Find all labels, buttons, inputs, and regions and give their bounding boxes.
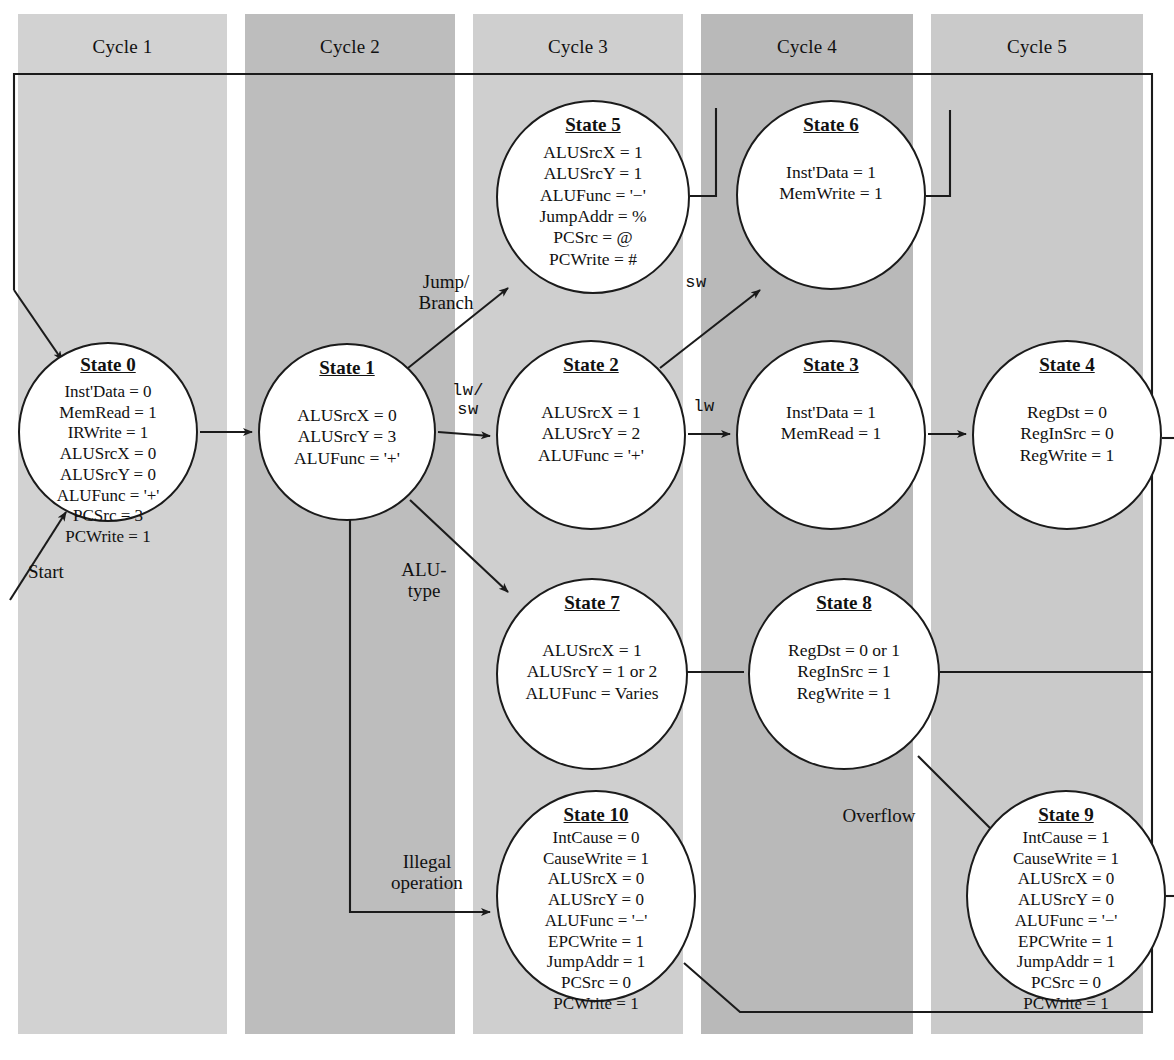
state-title: State 1 bbox=[319, 357, 374, 379]
edge-label-overflow: Overflow bbox=[824, 806, 934, 827]
signal: ALUFunc = '−' bbox=[1015, 911, 1118, 932]
signal: ALUSrcY = 2 bbox=[542, 423, 641, 444]
signal: ALUSrcY = 0 bbox=[1018, 890, 1114, 911]
state-title: State 7 bbox=[564, 592, 619, 614]
signal: IntCause = 1 bbox=[1022, 828, 1109, 849]
state-signal-list: ALUSrcX = 1 ALUSrcY = 2 ALUFunc = '+' bbox=[538, 402, 644, 466]
signal: CauseWrite = 1 bbox=[1013, 849, 1119, 870]
state-title: State 9 bbox=[1038, 804, 1093, 826]
state-title: State 10 bbox=[564, 804, 629, 826]
signal: RegInSrc = 0 bbox=[1020, 423, 1113, 444]
signal: RegWrite = 1 bbox=[797, 683, 892, 704]
state-node-state-1[interactable]: State 1 ALUSrcX = 0 ALUSrcY = 3 ALUFunc … bbox=[258, 343, 436, 521]
signal: EPCWrite = 1 bbox=[1018, 932, 1114, 953]
state-signal-list: ALUSrcX = 1 ALUSrcY = 1 or 2 ALUFunc = V… bbox=[525, 640, 658, 704]
state-signal-list: ALUSrcX = 0 ALUSrcY = 3 ALUFunc = '+' bbox=[294, 405, 400, 469]
state-node-state-7[interactable]: State 7 ALUSrcX = 1 ALUSrcY = 1 or 2 ALU… bbox=[496, 578, 688, 770]
state-signal-list: Inst'Data = 1 MemRead = 1 bbox=[781, 402, 881, 445]
signal: ALUSrcX = 1 bbox=[541, 402, 640, 423]
signal: ALUFunc = '−' bbox=[540, 185, 646, 206]
state-title: State 6 bbox=[803, 114, 858, 136]
signal: ALUSrcX = 1 bbox=[543, 142, 642, 163]
signal: PCWrite = 1 bbox=[1023, 994, 1108, 1015]
signal: EPCWrite = 1 bbox=[548, 932, 644, 953]
signal: PCWrite = 1 bbox=[553, 994, 638, 1015]
signal: PCSrc = @ bbox=[553, 227, 632, 248]
signal: ALUFunc = '+' bbox=[57, 486, 160, 507]
signal: PCWrite = 1 bbox=[65, 527, 150, 548]
signal: CauseWrite = 1 bbox=[543, 849, 649, 870]
state-node-state-5[interactable]: State 5 ALUSrcX = 1 ALUSrcY = 1 ALUFunc … bbox=[496, 100, 690, 294]
signal: ALUSrcX = 0 bbox=[60, 444, 156, 465]
state-signal-list: Inst'Data = 1 MemWrite = 1 bbox=[779, 162, 882, 205]
state-node-state-2[interactable]: State 2 ALUSrcX = 1 ALUSrcY = 2 ALUFunc … bbox=[496, 340, 686, 530]
state-diagram-canvas: Cycle 1 Cycle 2 Cycle 3 Cycle 4 Cycle 5 bbox=[0, 0, 1174, 1060]
cycle-label-4: Cycle 4 bbox=[701, 36, 913, 58]
signal: ALUFunc = Varies bbox=[525, 683, 658, 704]
signal: ALUSrcY = 1 or 2 bbox=[527, 661, 658, 682]
signal: ALUSrcX = 1 bbox=[542, 640, 641, 661]
cycle-label-5: Cycle 5 bbox=[931, 36, 1143, 58]
signal: ALUSrcY = 3 bbox=[298, 426, 397, 447]
state-title: State 3 bbox=[803, 354, 858, 376]
signal: ALUSrcY = 1 bbox=[544, 163, 643, 184]
signal: ALUSrcX = 0 bbox=[548, 869, 644, 890]
signal: ALUSrcX = 0 bbox=[297, 405, 396, 426]
signal: Inst'Data = 0 bbox=[64, 382, 151, 403]
state-node-state-3[interactable]: State 3 Inst'Data = 1 MemRead = 1 bbox=[736, 340, 926, 530]
edge-label-alu-type: ALU- type bbox=[386, 560, 462, 602]
state-signal-list: Inst'Data = 0 MemRead = 1 IRWrite = 1 AL… bbox=[57, 382, 160, 548]
edge-label-lw: lw bbox=[684, 398, 724, 417]
signal: MemRead = 1 bbox=[781, 423, 881, 444]
signal: ALUFunc = '+' bbox=[294, 448, 400, 469]
state-node-state-8[interactable]: State 8 RegDst = 0 or 1 RegInSrc = 1 Reg… bbox=[748, 578, 940, 770]
state-signal-list: ALUSrcX = 1 ALUSrcY = 1 ALUFunc = '−' Ju… bbox=[539, 142, 646, 270]
signal: JumpAddr = 1 bbox=[547, 952, 645, 973]
signal: PCSrc = 0 bbox=[561, 973, 631, 994]
state-title: State 4 bbox=[1039, 354, 1094, 376]
state-title: State 0 bbox=[80, 354, 135, 376]
state-node-state-9[interactable]: State 9 IntCause = 1 CauseWrite = 1 ALUS… bbox=[966, 790, 1166, 1002]
state-title: State 5 bbox=[565, 114, 620, 136]
signal: Inst'Data = 1 bbox=[786, 402, 876, 423]
signal: MemRead = 1 bbox=[59, 403, 156, 424]
signal: RegDst = 0 bbox=[1027, 402, 1107, 423]
state-title: State 2 bbox=[563, 354, 618, 376]
signal: ALUFunc = '+' bbox=[538, 445, 644, 466]
cycle-label-3: Cycle 3 bbox=[473, 36, 683, 58]
signal: MemWrite = 1 bbox=[779, 183, 882, 204]
state-node-state-4[interactable]: State 4 RegDst = 0 RegInSrc = 0 RegWrite… bbox=[972, 340, 1162, 530]
state-signal-list: IntCause = 1 CauseWrite = 1 ALUSrcX = 0 … bbox=[1013, 828, 1119, 1015]
signal: JumpAddr = % bbox=[539, 206, 646, 227]
state-signal-list: IntCause = 0 CauseWrite = 1 ALUSrcX = 0 … bbox=[543, 828, 649, 1015]
state-node-state-0[interactable]: State 0 Inst'Data = 0 MemRead = 1 IRWrit… bbox=[18, 342, 198, 522]
signal: PCSrc = 0 bbox=[1031, 973, 1101, 994]
state-signal-list: RegDst = 0 RegInSrc = 0 RegWrite = 1 bbox=[1020, 402, 1115, 466]
edge-label-jump-branch: Jump/ Branch bbox=[398, 272, 494, 314]
cycle-label-2: Cycle 2 bbox=[245, 36, 455, 58]
signal: ALUFunc = '−' bbox=[545, 911, 648, 932]
signal: IntCause = 0 bbox=[552, 828, 639, 849]
signal: PCSrc = 3 bbox=[73, 506, 143, 527]
state-signal-list: RegDst = 0 or 1 RegInSrc = 1 RegWrite = … bbox=[788, 640, 900, 704]
state-title: State 8 bbox=[816, 592, 871, 614]
signal: IRWrite = 1 bbox=[68, 423, 149, 444]
cycle-label-1: Cycle 1 bbox=[18, 36, 227, 58]
edge-label-start: Start bbox=[28, 562, 64, 583]
signal: ALUSrcX = 0 bbox=[1018, 869, 1114, 890]
signal: JumpAddr = 1 bbox=[1017, 952, 1115, 973]
state-node-state-10[interactable]: State 10 IntCause = 0 CauseWrite = 1 ALU… bbox=[496, 790, 696, 1002]
signal: ALUSrcY = 0 bbox=[60, 465, 156, 486]
signal: RegWrite = 1 bbox=[1020, 445, 1115, 466]
state-node-state-6[interactable]: State 6 Inst'Data = 1 MemWrite = 1 bbox=[736, 100, 926, 290]
signal: RegInSrc = 1 bbox=[797, 661, 890, 682]
signal: RegDst = 0 or 1 bbox=[788, 640, 900, 661]
signal: PCWrite = # bbox=[549, 249, 637, 270]
edge-label-lw-sw: lw/ sw bbox=[446, 382, 490, 419]
signal: Inst'Data = 1 bbox=[786, 162, 876, 183]
signal: ALUSrcY = 0 bbox=[548, 890, 644, 911]
edge-label-illegal-operation: Illegal operation bbox=[360, 852, 494, 894]
edge-label-sw: sw bbox=[676, 274, 716, 293]
